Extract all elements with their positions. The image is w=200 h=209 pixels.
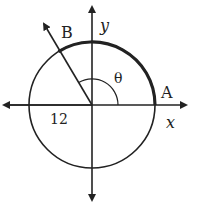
label-y: y — [99, 16, 110, 35]
label-a: A — [160, 83, 173, 102]
label-b: B — [61, 23, 73, 42]
circle-diagram: B y θ A 12 x — [0, 0, 200, 209]
label-x: x — [166, 113, 175, 132]
label-theta: θ — [114, 70, 122, 86]
label-radius: 12 — [50, 111, 68, 127]
